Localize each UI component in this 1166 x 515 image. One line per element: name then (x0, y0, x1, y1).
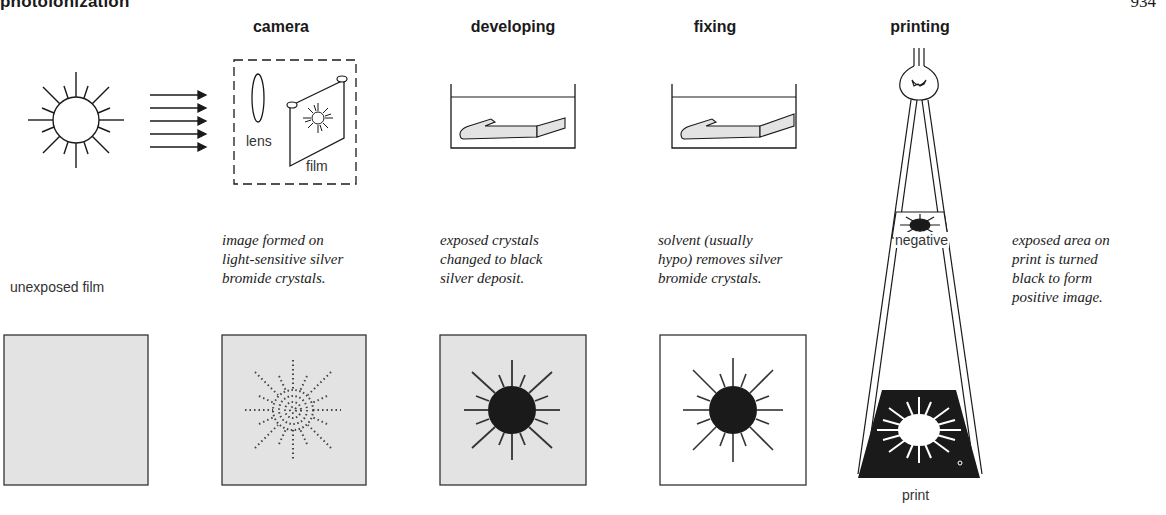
page-number: 934 (1131, 0, 1157, 12)
latent-image-film-square (221, 334, 367, 486)
light-rays-arrows-icon (148, 88, 208, 152)
lens-label: lens (246, 133, 272, 149)
heading-fixing: fixing (645, 18, 785, 36)
unexposed-film-label: unexposed film (10, 279, 104, 295)
lamp-icon (900, 48, 938, 100)
heading-printing: printing (850, 18, 990, 36)
heading-developing: developing (443, 18, 583, 36)
printing-caption: exposed area on print is turned black to… (1012, 231, 1110, 307)
developed-film-square (439, 334, 587, 486)
developing-tray-diagram (449, 82, 577, 152)
page-title: photoionization (0, 0, 130, 12)
fixing-tray-diagram (670, 82, 798, 152)
developing-caption: exposed crystals changed to black silver… (440, 231, 542, 288)
fixing-caption: solvent (usually hypo) removes silver br… (658, 231, 782, 288)
sun-icon (26, 70, 126, 170)
film-label: film (306, 158, 328, 174)
enlarger-diagram (856, 40, 986, 480)
camera-diagram (232, 58, 358, 186)
heading-camera: camera (211, 18, 351, 36)
negative-label: negative (894, 232, 949, 248)
unexposed-film-square (3, 334, 149, 486)
camera-caption: image formed on light-sensitive silver b… (222, 231, 343, 288)
lens-icon (252, 74, 264, 122)
fixed-negative-square (659, 334, 807, 486)
print-label: print (902, 487, 929, 503)
